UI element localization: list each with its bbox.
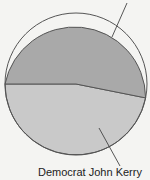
slice-label-kerry: Democrat John Kerry [38,166,142,178]
pie-slice-kerry [5,84,146,155]
pie-chart [0,0,150,180]
